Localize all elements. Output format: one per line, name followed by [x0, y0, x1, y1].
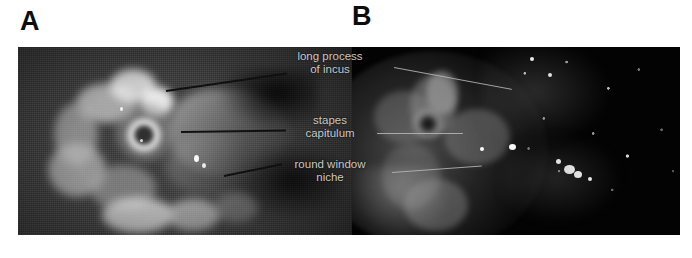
annotation-line-2: of incus — [288, 63, 372, 76]
stapes-capitulum-structure — [412, 109, 444, 139]
annotation-stapes-capitulum: stapes capitulum — [288, 114, 372, 139]
figure-container: A B — [0, 0, 692, 258]
panel-letter-a: A — [20, 8, 40, 35]
annotation-line-1: round window — [295, 158, 366, 170]
annotation-round-window-niche: round window niche — [284, 158, 376, 183]
image-strip — [18, 47, 680, 235]
annotation-line-1: long process — [297, 50, 362, 62]
annotation-long-process-of-incus: long process of incus — [288, 50, 372, 75]
panel-a-vignette — [18, 47, 352, 235]
annotation-line-2: capitulum — [288, 127, 372, 140]
panel-letter-b: B — [352, 3, 372, 30]
panel-a-white-light-image — [18, 47, 352, 235]
diffuse-glow-region — [502, 133, 622, 223]
diffuse-glow-region — [482, 47, 612, 147]
leader-line-stapes-panel-b — [377, 133, 463, 134]
annotation-line-2: niche — [284, 171, 376, 184]
panel-b-fluorescence-image — [352, 47, 680, 235]
fluorescence-hotspot — [480, 147, 484, 151]
annotation-line-1: stapes — [313, 114, 347, 126]
